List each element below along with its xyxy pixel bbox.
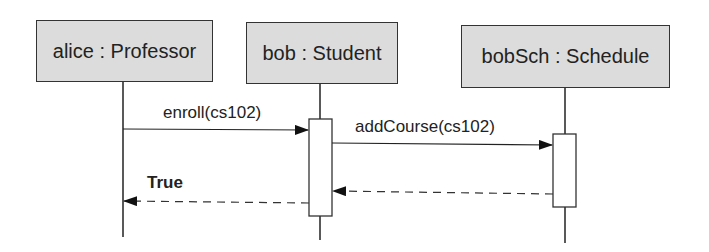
lifeline-label-bobsch: bobSch : Schedule [482, 45, 650, 68]
lifeline-head-bob: bob : Student [246, 22, 398, 84]
lifeline-label-alice: alice : Professor [53, 40, 196, 63]
message-label-addcourse: addCourse(cs102) [355, 117, 495, 137]
message-arrow-addcourse [332, 143, 552, 145]
message-label-enroll: enroll(cs102) [163, 103, 261, 123]
activation-bar-bobsch [553, 134, 576, 207]
activation-bar-bob [309, 119, 332, 216]
return-label-true: True [147, 173, 183, 193]
return-arrow-addcourse [333, 191, 553, 194]
message-arrow-enroll [123, 129, 308, 130]
return-arrow-true [124, 201, 309, 203]
lifeline-label-bob: bob : Student [263, 42, 382, 65]
lifeline-head-alice: alice : Professor [36, 20, 213, 82]
lifeline-head-bobsch: bobSch : Schedule [461, 25, 670, 88]
